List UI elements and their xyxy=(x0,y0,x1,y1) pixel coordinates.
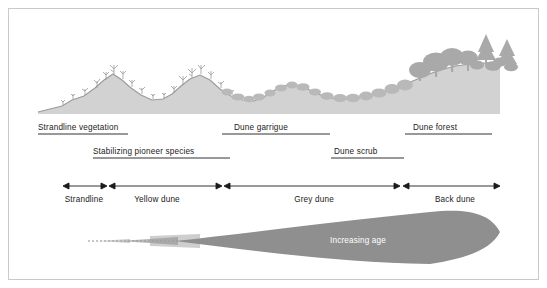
dune-succession-figure: Strandline vegetation Dune garrigue Dune… xyxy=(0,0,547,288)
dune-profile-diagram xyxy=(0,0,547,288)
dune-type-label-strandline: Strandline xyxy=(65,195,104,204)
dune-type-label-back-dune: Back dune xyxy=(435,195,475,204)
dune-type-label-yellow-dune: Yellow dune xyxy=(134,195,180,204)
zone-label-dune-garrigue: Dune garrigue xyxy=(234,123,288,132)
zone-label-strandline-vegetation: Strandline vegetation xyxy=(38,123,118,132)
increasing-age-label: Increasing age xyxy=(330,236,386,245)
dune-type-arrows xyxy=(63,183,500,189)
zone-label-dune-forest: Dune forest xyxy=(413,123,457,132)
increasing-age-wedge xyxy=(88,211,500,264)
zone-label-stabilizing-pioneer-species: Stabilizing pioneer species xyxy=(93,147,194,156)
zone-label-dune-scrub: Dune scrub xyxy=(334,147,378,156)
dune-type-label-grey-dune: Grey dune xyxy=(294,195,334,204)
